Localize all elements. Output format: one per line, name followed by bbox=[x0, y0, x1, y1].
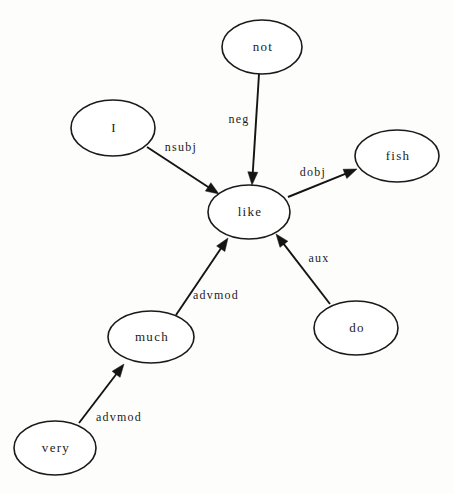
node-label-do: do bbox=[349, 320, 365, 335]
node-label-i: I bbox=[111, 120, 117, 135]
edge-nsubj bbox=[147, 147, 219, 194]
node-i[interactable]: I bbox=[71, 100, 155, 156]
arrowhead-advmod-very-much bbox=[112, 364, 124, 377]
edge-line-advmod-much-like bbox=[176, 247, 222, 315]
edge-neg bbox=[248, 74, 259, 185]
arrowhead-aux bbox=[276, 234, 288, 247]
node-label-like: like bbox=[238, 204, 263, 219]
node-much[interactable]: much bbox=[108, 311, 194, 363]
edge-advmod-much-like bbox=[176, 238, 228, 315]
node-fish[interactable]: fish bbox=[355, 130, 439, 182]
edge-label-dobj: dobj bbox=[300, 165, 326, 179]
nodes-layer: notIfishlikedomuchvery bbox=[14, 20, 439, 475]
node-do[interactable]: do bbox=[314, 301, 398, 355]
node-like[interactable]: like bbox=[208, 185, 290, 239]
node-very[interactable]: very bbox=[14, 421, 96, 475]
edge-label-neg: neg bbox=[228, 112, 249, 126]
node-label-much: much bbox=[135, 329, 169, 344]
dependency-parse-diagram: notIfishlikedomuchvery nsubjnegdobjauxad… bbox=[0, 0, 454, 493]
edge-labels-layer: nsubjnegdobjauxadvmodadvmod bbox=[96, 112, 330, 424]
arrowhead-advmod-much-like bbox=[217, 238, 228, 252]
parse-graph-canvas: notIfishlikedomuchvery nsubjnegdobjauxad… bbox=[0, 0, 454, 493]
edge-line-neg bbox=[253, 74, 259, 174]
edge-label-advmod-very-much: advmod bbox=[96, 410, 142, 424]
arrowhead-dobj bbox=[343, 169, 357, 179]
node-label-very: very bbox=[42, 440, 70, 455]
node-label-not: not bbox=[253, 39, 274, 54]
arrowhead-neg bbox=[248, 172, 258, 185]
arrowhead-nsubj bbox=[205, 183, 219, 194]
edge-label-aux: aux bbox=[308, 251, 329, 265]
node-label-fish: fish bbox=[386, 148, 411, 163]
edge-label-nsubj: nsubj bbox=[165, 140, 197, 154]
edge-aux bbox=[276, 234, 330, 304]
node-not[interactable]: not bbox=[222, 20, 302, 74]
edge-label-advmod-much-like: advmod bbox=[193, 288, 239, 302]
